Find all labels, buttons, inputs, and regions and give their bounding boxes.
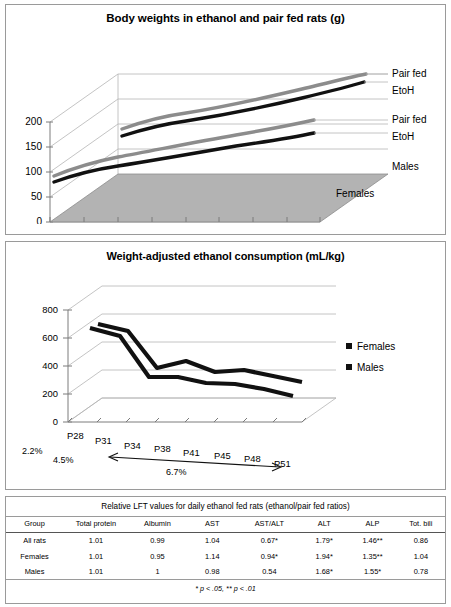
col-total-protein: Total protein xyxy=(63,517,129,533)
annotation-4-5-percent: 4.5% xyxy=(53,455,74,465)
cell-alp: 1.55* xyxy=(348,564,396,579)
consumption-legend: Females Males xyxy=(346,341,395,373)
annotation-6-7-percent: 6.7% xyxy=(166,467,187,477)
cell-ast: 1.04 xyxy=(186,533,239,549)
label-males-etoh: EtoH xyxy=(392,85,414,96)
cell-total-protein: 1.01 xyxy=(63,533,129,549)
series-males-consumption xyxy=(98,324,302,382)
annotation-2-2-percent: 2.2% xyxy=(22,446,43,456)
y-tick-0: 0 xyxy=(53,416,58,427)
col-alp: ALP xyxy=(348,517,396,533)
x-tick-p45: P45 xyxy=(214,450,231,461)
x-tick-p38: P38 xyxy=(154,443,171,454)
label-males-depth: Males xyxy=(392,161,419,172)
col-group: Group xyxy=(6,517,63,533)
legend-swatch-males xyxy=(346,364,352,370)
figure-page: Body weights in ethanol and pair fed rat… xyxy=(0,0,451,607)
label-females-depth: Females xyxy=(336,188,374,199)
consumption-y-axis: 800 600 400 200 0 xyxy=(42,304,72,427)
legend-swatch-females xyxy=(346,343,352,349)
col-albumin: Albumin xyxy=(129,517,186,533)
col-tot-bili: Tot. bili xyxy=(397,517,445,533)
label-males-pair-fed: Pair fed xyxy=(392,68,426,79)
cell-total-protein: 1.01 xyxy=(63,564,129,579)
y-tick-100: 100 xyxy=(25,166,42,177)
cell-ast-alt: 0.54 xyxy=(239,564,300,579)
table-header-row: Group Total protein Albumin AST AST/ALT … xyxy=(6,517,445,533)
cell-albumin: 0.95 xyxy=(129,548,186,563)
y-tick-400: 400 xyxy=(42,360,58,371)
y-tick-200: 200 xyxy=(42,388,58,399)
x-tick-p51: P51 xyxy=(274,458,291,469)
consumption-gridlines xyxy=(68,286,336,422)
lft-table-wrap: Group Total protein Albumin AST AST/ALT … xyxy=(6,517,445,596)
cell-group: All rats xyxy=(6,533,63,549)
legend-label-males: Males xyxy=(357,362,384,373)
body-weights-chart-title: Body weights in ethanol and pair fed rat… xyxy=(6,5,445,24)
cell-albumin: 0.99 xyxy=(129,533,186,549)
cell-ast: 0.98 xyxy=(186,564,239,579)
table-row: Males 1.01 1 0.98 0.54 1.68* 1.55* 0.78 xyxy=(6,564,445,579)
consumption-x-tick-labels: P28 P31 P34 P38 P41 P45 P48 P51 xyxy=(67,430,291,469)
cell-albumin: 1 xyxy=(129,564,186,579)
cell-alt: 1.68* xyxy=(300,564,348,579)
y-tick-200: 200 xyxy=(25,116,42,127)
body-weights-svg: 200 150 100 50 0 xyxy=(6,24,447,224)
cell-alp: 1.46** xyxy=(348,533,396,549)
y-tick-0: 0 xyxy=(36,216,42,224)
x-tick-p41: P41 xyxy=(183,447,200,458)
table-row: Females 1.01 0.95 1.14 0.94* 1.94* 1.35*… xyxy=(6,548,445,563)
col-ast-alt: AST/ALT xyxy=(239,517,300,533)
lft-table-body: All rats 1.01 0.99 1.04 0.67* 1.79* 1.46… xyxy=(6,533,445,580)
cell-tot-bili: 1.04 xyxy=(397,548,445,563)
label-females-pair-fed: Pair fed xyxy=(392,114,426,125)
lft-table: Group Total protein Albumin AST AST/ALT … xyxy=(6,517,445,579)
consumption-plot-area: 800 600 400 200 0 xyxy=(6,262,445,509)
series-males-pair-fed xyxy=(122,74,366,129)
consumption-chart-title: Weight-adjusted ethanol consumption (mL/… xyxy=(6,242,445,262)
lft-table-panel: Relative LFT values for daily ethanol fe… xyxy=(5,496,446,604)
y-tick-600: 600 xyxy=(42,332,58,343)
cell-alt: 1.79* xyxy=(300,533,348,549)
cell-tot-bili: 0.86 xyxy=(397,533,445,549)
legend-label-females: Females xyxy=(357,341,395,352)
lft-table-footnote: * p < .05, ** p < .01 xyxy=(6,579,445,596)
cell-alp: 1.35** xyxy=(348,548,396,563)
consumption-chart-panel: Weight-adjusted ethanol consumption (mL/… xyxy=(5,241,446,490)
consumption-x-axis xyxy=(68,418,306,422)
label-females-etoh: EtoH xyxy=(392,131,414,142)
cell-alt: 1.94* xyxy=(300,548,348,563)
consumption-svg: 800 600 400 200 0 xyxy=(6,262,447,477)
col-alt: ALT xyxy=(300,517,348,533)
cell-group: Males xyxy=(6,564,63,579)
cell-group: Females xyxy=(6,548,63,563)
y-tick-150: 150 xyxy=(25,141,42,152)
series-females-pair-fed xyxy=(54,120,314,176)
body-weights-plot-area: 200 150 100 50 0 xyxy=(6,24,445,253)
y-tick-800: 800 xyxy=(42,304,58,315)
cell-ast-alt: 0.67* xyxy=(239,533,300,549)
cell-ast: 1.14 xyxy=(186,548,239,563)
x-tick-p48: P48 xyxy=(244,453,261,464)
body-weights-chart-panel: Body weights in ethanol and pair fed rat… xyxy=(5,4,446,235)
col-ast: AST xyxy=(186,517,239,533)
lft-table-title: Relative LFT values for daily ethanol fe… xyxy=(6,497,445,517)
x-tick-p28: P28 xyxy=(67,430,84,441)
cell-ast-alt: 0.94* xyxy=(239,548,300,563)
series-males-etoh xyxy=(122,82,364,136)
cell-total-protein: 1.01 xyxy=(63,548,129,563)
x-tick-p34: P34 xyxy=(124,440,141,451)
consumption-floor-plane xyxy=(68,398,336,422)
lft-table-head: Group Total protein Albumin AST AST/ALT … xyxy=(6,517,445,533)
body-weights-y-axis: 200 150 100 50 0 xyxy=(25,116,53,224)
table-row: All rats 1.01 0.99 1.04 0.67* 1.79* 1.46… xyxy=(6,533,445,549)
cell-tot-bili: 0.78 xyxy=(397,564,445,579)
y-tick-50: 50 xyxy=(31,191,43,202)
x-tick-p31: P31 xyxy=(95,435,112,446)
